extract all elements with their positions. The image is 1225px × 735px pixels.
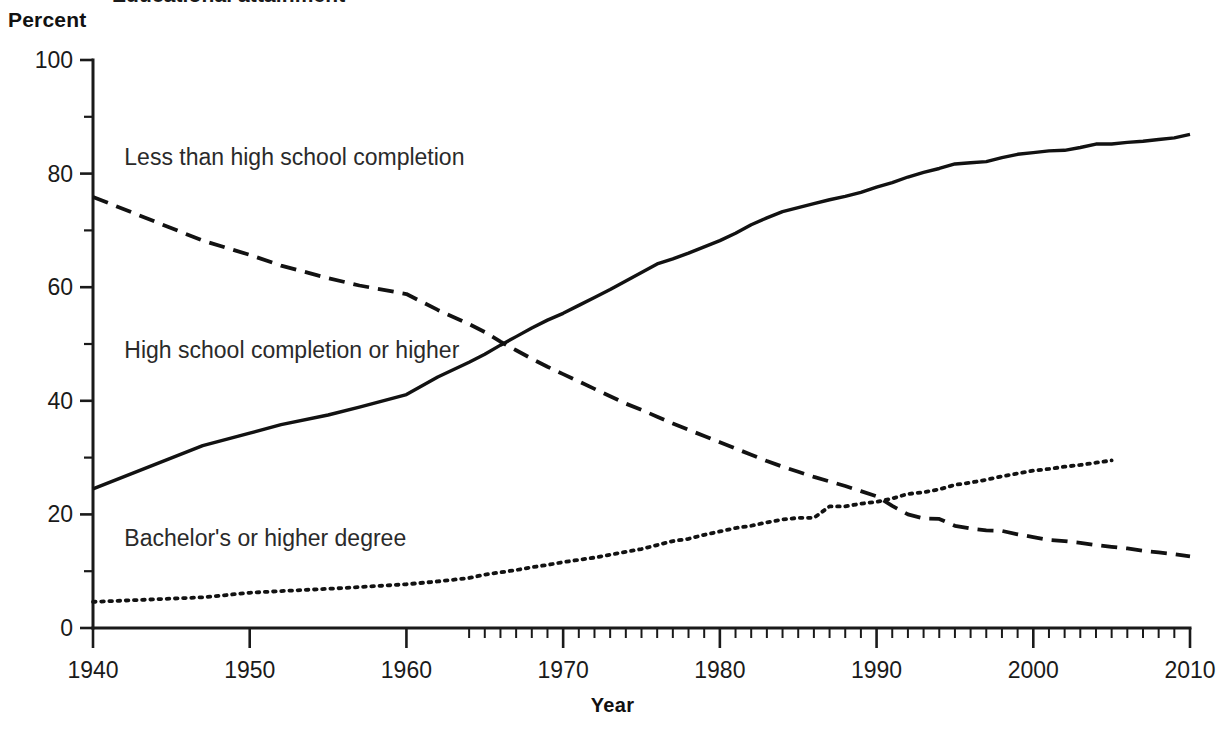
x-tick-label: 2000: [1008, 657, 1059, 683]
x-tick-label: 1990: [851, 657, 902, 683]
line-chart-plot: 0204060801001940195019601970198019902000…: [0, 0, 1225, 735]
y-tick-label: 60: [47, 274, 73, 300]
x-tick-label: 1940: [67, 657, 118, 683]
y-tick-label: 80: [47, 161, 73, 187]
chart-tick-labels: 0204060801001940195019601970198019902000…: [35, 47, 1216, 683]
series-line-0: [93, 197, 1190, 557]
x-tick-label: 1950: [224, 657, 275, 683]
y-tick-label: 0: [60, 615, 73, 641]
chart-series-labels: Less than high school completionHigh sch…: [124, 144, 464, 551]
x-tick-label: 1970: [538, 657, 589, 683]
series-label-0: Less than high school completion: [124, 144, 464, 170]
x-tick-label: 1980: [694, 657, 745, 683]
series-label-1: High school completion or higher: [124, 337, 459, 363]
chart-figure: Educational attainment Percent 020406080…: [0, 0, 1225, 735]
y-tick-label: 20: [47, 501, 73, 527]
y-tick-label: 40: [47, 388, 73, 414]
x-tick-label: 2010: [1164, 657, 1215, 683]
y-tick-label: 100: [35, 47, 73, 73]
series-label-2: Bachelor's or higher degree: [124, 525, 406, 551]
x-tick-label: 1960: [381, 657, 432, 683]
series-line-1: [93, 134, 1190, 488]
x-axis-title: Year: [0, 694, 1225, 717]
